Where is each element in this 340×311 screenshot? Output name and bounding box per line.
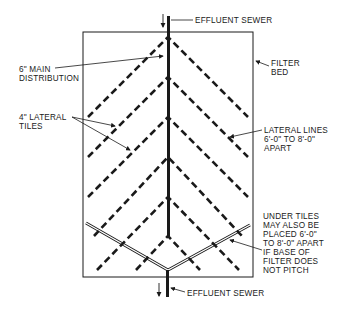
label-under-tiles-1: UNDER TILES <box>263 212 320 221</box>
leader-under-tiles <box>230 240 262 250</box>
label-filter-bed-1: FILTER <box>271 59 300 68</box>
label-filter-bed-2: BED <box>271 68 288 77</box>
leader-filter-bed <box>256 61 269 66</box>
label-under-tiles-7: NOT PITCH <box>263 266 309 275</box>
filter-bed-diagram: EFFLUENT SEWER 6" MAIN DISTRIBUTION FILT… <box>0 0 340 311</box>
label-under-tiles-5: IF BASE OF <box>263 248 310 257</box>
label-lateral-lines-2: 6'-0" TO 8'-0" <box>264 135 315 144</box>
leader-effluent-bottom <box>171 288 185 292</box>
label-effluent-sewer-top: EFFLUENT SEWER <box>195 16 272 25</box>
label-lateral-lines-1: LATERAL LINES <box>264 126 328 135</box>
label-under-tiles-2: MAY ALSO BE <box>263 221 319 230</box>
label-lateral-lines-3: APART <box>264 144 292 153</box>
label-under-tiles-6: FILTER DOES <box>263 257 319 266</box>
label-main-distribution-2: DISTRIBUTION <box>19 74 79 83</box>
label-lateral-tiles-2: TILES <box>19 122 43 131</box>
leader-lateral-tiles-1 <box>72 117 115 126</box>
label-main-distribution-1: 6" MAIN <box>19 65 51 74</box>
label-under-tiles-3: PLACED 6'-0" <box>263 230 317 239</box>
leader-main-distribution <box>55 56 163 68</box>
leader-lateral-lines <box>230 130 262 137</box>
label-under-tiles-4: TO 8'-0" APART <box>263 239 324 248</box>
label-effluent-sewer-bottom: EFFLUENT SEWER <box>187 289 264 298</box>
label-lateral-tiles-1: 4" LATERAL <box>19 113 67 122</box>
